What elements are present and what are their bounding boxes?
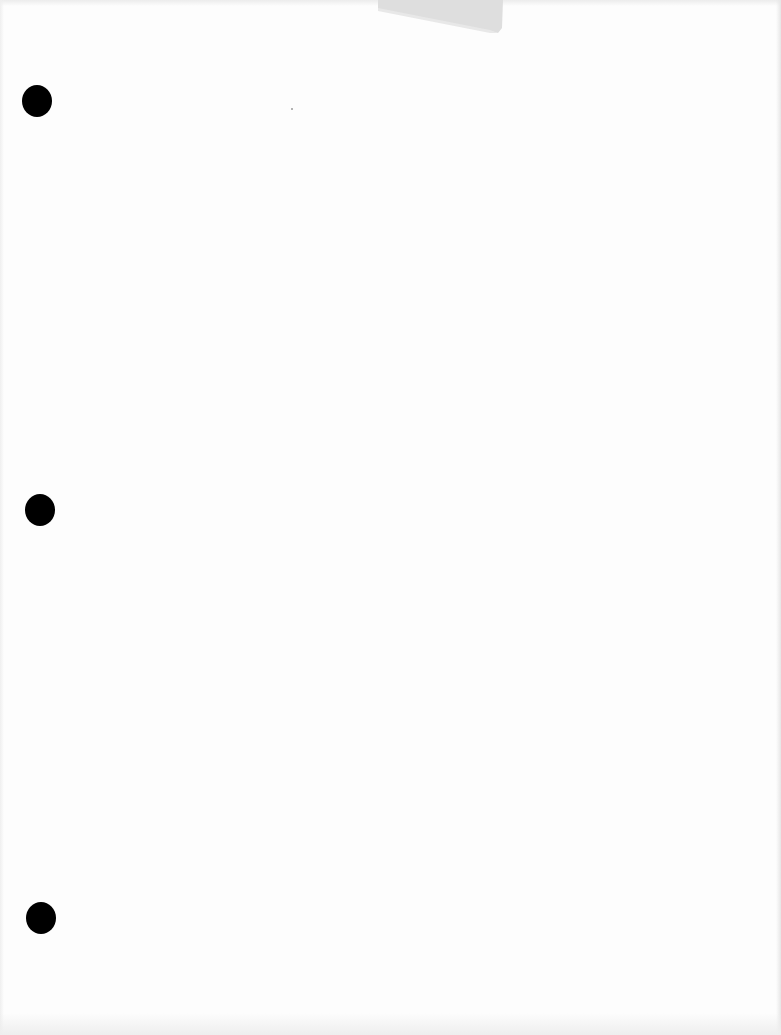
punch-hole-top <box>22 85 52 117</box>
page-left-edge-shadow <box>0 0 4 1035</box>
punch-hole-bottom <box>26 902 56 934</box>
scanned-blank-page <box>0 0 781 1035</box>
tape-strip <box>0 0 781 40</box>
page-right-edge-shadow <box>776 0 781 1035</box>
dust-speck <box>291 108 293 110</box>
page-bottom-edge-shadow <box>0 1013 781 1035</box>
punch-hole-middle <box>25 494 55 526</box>
